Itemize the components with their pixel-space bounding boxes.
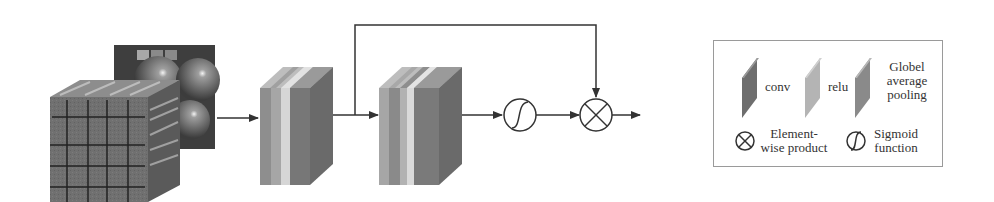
legend-product-label: Element- wise product xyxy=(755,127,833,155)
legend-gap-line2: average xyxy=(876,74,938,88)
legend-relu-label: relu xyxy=(828,80,848,94)
element-wise-product-icon xyxy=(580,99,612,131)
sigmoid-operator-icon xyxy=(504,99,536,131)
input-front-cube xyxy=(50,80,180,202)
legend-sigmoid-label: Sigmoid function xyxy=(866,127,926,155)
block-1 xyxy=(260,67,333,185)
legend-product-line2: wise product xyxy=(755,141,833,155)
legend-conv-label: conv xyxy=(765,80,790,94)
legend-gap-label: Globel average pooling xyxy=(876,60,938,102)
legend-product-line1: Element- xyxy=(755,127,833,141)
block-2 xyxy=(379,67,462,185)
legend-gap-line1: Globel xyxy=(876,60,938,74)
legend-gap-line3: pooling xyxy=(876,88,938,102)
legend-sigmoid-line1: Sigmoid xyxy=(866,127,926,141)
legend-sigmoid-line2: function xyxy=(866,141,926,155)
